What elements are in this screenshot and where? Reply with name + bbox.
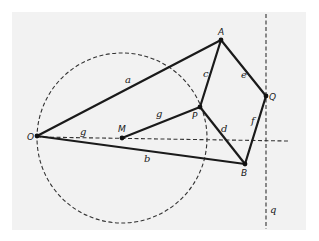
label-segment-b: b	[144, 153, 150, 164]
label-segment-e: e	[241, 69, 247, 80]
label-point-Q: Q	[269, 92, 276, 102]
point-O	[35, 134, 40, 139]
point-Q	[264, 94, 269, 99]
label-segment-c: c	[203, 68, 209, 79]
label-segment-d: d	[221, 123, 227, 134]
label-segment-g: g	[156, 108, 162, 119]
geometry-diagram: O M P A Q B a b c d e f g g q	[0, 0, 319, 241]
paper-background	[12, 12, 306, 230]
label-point-P: P	[192, 111, 198, 121]
point-B	[243, 162, 248, 167]
point-P	[198, 105, 203, 110]
label-dashed-g: g	[80, 126, 86, 137]
point-A	[219, 38, 224, 43]
label-segment-a: a	[125, 74, 131, 85]
label-point-O: O	[27, 132, 34, 142]
label-point-M: M	[118, 124, 126, 134]
label-point-B: B	[241, 168, 247, 178]
label-dashed-q: q	[270, 204, 276, 215]
point-M	[120, 136, 125, 141]
label-point-A: A	[217, 27, 224, 37]
